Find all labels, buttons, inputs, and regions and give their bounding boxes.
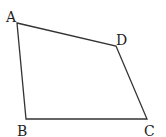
- vertex-label-d: D: [116, 32, 127, 48]
- vertex-label-a: A: [5, 9, 17, 25]
- vertex-label-c: C: [144, 123, 155, 137]
- quadrilateral-ABCD: [17, 23, 147, 119]
- quadrilateral-diagram: A D C B: [0, 0, 166, 137]
- vertex-label-b: B: [17, 123, 27, 137]
